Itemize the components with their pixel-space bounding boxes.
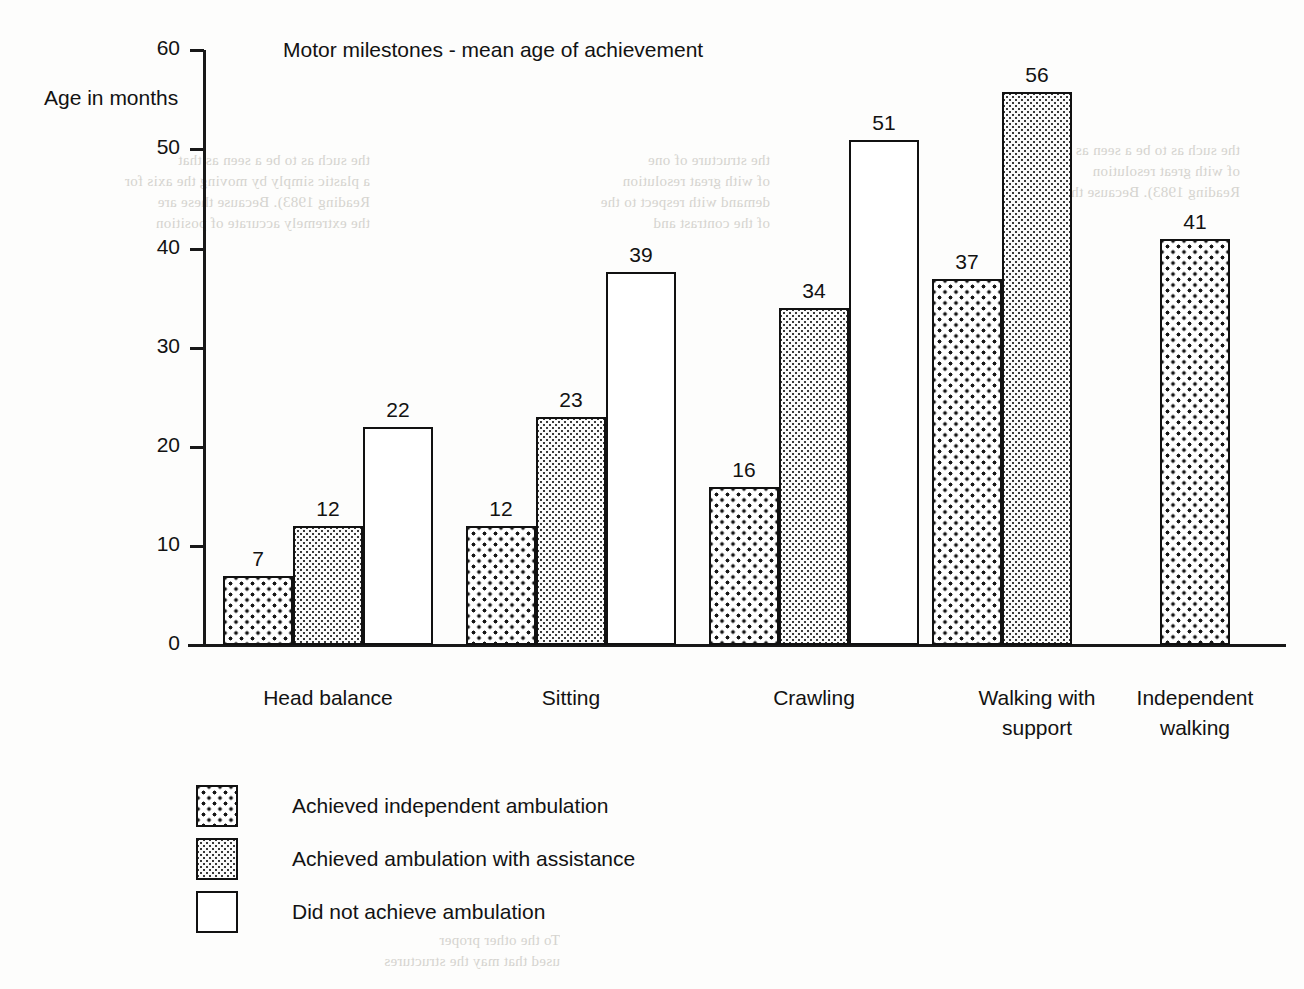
y-tick-30: [190, 347, 204, 350]
x-category-head-balance: Head balance: [218, 683, 438, 713]
y-tick-0: [190, 644, 204, 647]
bar-value-head-balance-independent: 7: [223, 547, 293, 571]
bar-crawling-independent[interactable]: [709, 487, 779, 645]
bar-sitting-assisted[interactable]: [536, 417, 606, 645]
bar-value-sitting-assisted: 23: [536, 388, 606, 412]
chart-title: Motor milestones - mean age of achieveme…: [283, 38, 703, 62]
y-tick-10: [190, 545, 204, 548]
y-tick-60: [190, 49, 204, 52]
bar-sitting-none[interactable]: [606, 272, 676, 645]
bar-crawling-assisted[interactable]: [779, 308, 849, 645]
bar-head-balance-none[interactable]: [363, 427, 433, 645]
y-tick-label-0: 0: [120, 631, 180, 655]
legend-swatch-empty-icon: [196, 891, 238, 933]
bar-value-crawling-assisted: 34: [779, 279, 849, 303]
legend-swatch-dense-dots-icon: [196, 785, 238, 827]
chart-legend: Achieved independent ambulation Achieved…: [196, 779, 635, 938]
bar-crawling-none[interactable]: [849, 140, 919, 645]
bar-value-sitting-independent: 12: [466, 497, 536, 521]
x-category-crawling: Crawling: [704, 683, 924, 713]
x-category-independent-walking: Independent walking: [1085, 683, 1304, 743]
y-tick-50: [190, 148, 204, 151]
chart-page: the such as to be a seen as that a plast…: [0, 0, 1304, 989]
bar-head-balance-independent[interactable]: [223, 576, 293, 645]
legend-item-assisted[interactable]: Achieved ambulation with assistance: [196, 832, 635, 885]
y-tick-20: [190, 446, 204, 449]
bar-value-walking-support-assisted: 56: [1002, 63, 1072, 87]
legend-label-assisted: Achieved ambulation with assistance: [292, 847, 635, 871]
y-tick-label-40: 40: [120, 235, 180, 259]
legend-label-independent: Achieved independent ambulation: [292, 794, 608, 818]
bar-value-sitting-none: 39: [606, 243, 676, 267]
y-tick-label-60: 60: [120, 36, 180, 60]
y-tick-40: [190, 248, 204, 251]
legend-item-independent[interactable]: Achieved independent ambulation: [196, 779, 635, 832]
bar-sitting-independent[interactable]: [466, 526, 536, 645]
bar-value-crawling-independent: 16: [709, 458, 779, 482]
bar-walking-support-independent[interactable]: [932, 279, 1002, 645]
y-tick-label-10: 10: [120, 532, 180, 556]
legend-swatch-fine-dots-icon: [196, 838, 238, 880]
legend-label-none: Did not achieve ambulation: [292, 900, 545, 924]
y-tick-label-50: 50: [120, 135, 180, 159]
bar-head-balance-assisted[interactable]: [293, 526, 363, 645]
bar-walking-support-assisted[interactable]: [1002, 92, 1072, 645]
bar-value-head-balance-assisted: 12: [293, 497, 363, 521]
y-tick-label-20: 20: [120, 433, 180, 457]
bar-value-crawling-none: 51: [849, 111, 919, 135]
y-tick-label-30: 30: [120, 334, 180, 358]
legend-item-none[interactable]: Did not achieve ambulation: [196, 885, 635, 938]
bar-independent-walking-independent[interactable]: [1160, 239, 1230, 645]
bar-value-walking-support-independent: 37: [932, 250, 1002, 274]
bar-value-independent-walking-independent: 41: [1160, 210, 1230, 234]
x-category-sitting: Sitting: [461, 683, 681, 713]
bar-value-head-balance-none: 22: [363, 398, 433, 422]
y-axis-label: Age in months: [44, 86, 178, 110]
